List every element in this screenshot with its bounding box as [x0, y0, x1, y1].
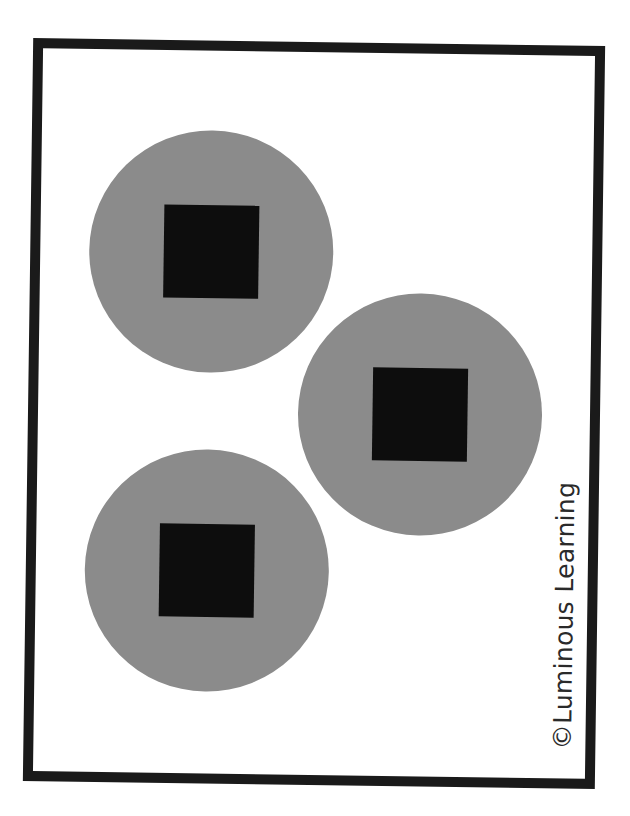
black-square-1	[163, 204, 259, 298]
gray-circle-2	[296, 292, 543, 537]
black-square-2	[372, 367, 468, 461]
gray-circle-3	[83, 448, 330, 693]
card-frame: ©Luminous Learning	[23, 38, 605, 789]
black-square-3	[159, 523, 255, 617]
gray-circle-1	[88, 129, 335, 374]
copyright-credit: ©Luminous Learning	[548, 482, 581, 750]
